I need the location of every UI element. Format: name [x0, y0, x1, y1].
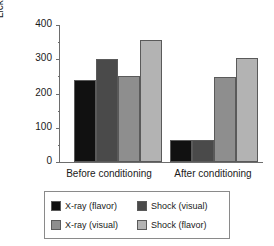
- bar-before-shock-flavor[interactable]: [140, 40, 162, 162]
- y-tick-mark: [56, 128, 60, 129]
- y-tick-mark: [56, 94, 60, 95]
- legend-swatch-icon: [51, 201, 61, 211]
- y-tick-mark: [56, 162, 60, 163]
- y-tick-mark: [56, 25, 60, 26]
- y-tick-label: 0: [46, 155, 52, 166]
- legend-swatch-icon: [137, 220, 147, 230]
- legend-label: X-ray (flavor): [65, 201, 117, 211]
- x-axis-label-before: Before conditioning: [56, 168, 162, 180]
- bar-before-shock-visual[interactable]: [96, 59, 118, 162]
- y-tick-label: 300: [35, 52, 52, 63]
- bar-after-xray-visual[interactable]: [214, 77, 236, 162]
- y-tick-mark-minor: [58, 145, 60, 146]
- bar-after-xray-flavor[interactable]: [170, 140, 192, 162]
- bar-group-after: [170, 25, 260, 162]
- y-tick-mark: [56, 59, 60, 60]
- legend-swatch-icon: [137, 201, 147, 211]
- bar-chart-figure: Licks (per minute) 400 300 200 100: [0, 0, 274, 246]
- bar-before-xray-flavor[interactable]: [74, 80, 96, 162]
- legend-entry-shock-visual[interactable]: Shock (visual): [137, 201, 223, 211]
- bar-group-before: [74, 25, 164, 162]
- x-axis-line: [59, 162, 263, 163]
- legend-label: X-ray (visual): [65, 220, 118, 230]
- y-tick-label: 400: [35, 18, 52, 29]
- plot-area: 400 300 200 100 0: [60, 25, 263, 162]
- legend-entry-shock-flavor[interactable]: Shock (flavor): [137, 220, 223, 230]
- legend-label: Shock (visual): [151, 201, 208, 211]
- legend-swatch-icon: [51, 220, 61, 230]
- y-tick-mark-minor: [58, 42, 60, 43]
- bar-after-shock-flavor[interactable]: [236, 58, 258, 162]
- x-axis-label-after: After conditioning: [160, 168, 266, 180]
- y-axis-title: Licks (per minute): [0, 0, 5, 18]
- y-tick-mark-minor: [58, 76, 60, 77]
- legend-row-1: X-ray (flavor) Shock (visual): [51, 196, 223, 215]
- legend-row-2: X-ray (visual) Shock (flavor): [51, 215, 223, 234]
- y-tick-mark-minor: [58, 111, 60, 112]
- y-tick-label: 200: [35, 87, 52, 98]
- legend-label: Shock (flavor): [151, 220, 207, 230]
- chart-legend: X-ray (flavor) Shock (visual) X-ray (vis…: [44, 191, 230, 239]
- legend-entry-xray-visual[interactable]: X-ray (visual): [51, 220, 137, 230]
- bar-before-xray-visual[interactable]: [118, 76, 140, 162]
- y-tick-label: 100: [35, 121, 52, 132]
- legend-entry-xray-flavor[interactable]: X-ray (flavor): [51, 201, 137, 211]
- bar-after-shock-visual[interactable]: [192, 140, 214, 162]
